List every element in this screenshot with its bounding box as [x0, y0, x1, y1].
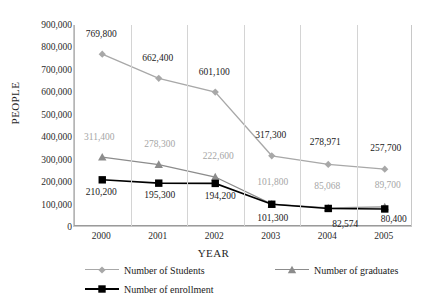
data-label: 80,400 — [359, 214, 427, 224]
y-tick-label: 600,000 — [14, 87, 72, 97]
legend-item-2[interactable]: Number of enrollment — [85, 281, 213, 297]
legend-item-1[interactable]: Number of graduates — [275, 262, 398, 278]
triangle-marker — [275, 264, 309, 276]
diamond-marker — [85, 264, 119, 276]
data-label: 89,700 — [353, 180, 423, 190]
y-tick-label: 0 — [14, 222, 72, 232]
vertical-gridline — [357, 25, 358, 226]
vertical-gridline — [300, 25, 301, 226]
data-label: 311,400 — [64, 132, 134, 142]
y-tick-label: 700,000 — [14, 65, 72, 75]
x-axis-title: YEAR — [0, 247, 427, 259]
data-label: 278,971 — [290, 137, 360, 147]
y-tick-label: 100,000 — [14, 200, 72, 210]
chart-legend: Number of StudentsNumber of graduatesNum… — [0, 262, 427, 302]
y-tick-label: 200,000 — [14, 177, 72, 187]
y-tick-label: 300,000 — [14, 155, 72, 165]
legend-label: Number of graduates — [314, 265, 398, 276]
x-tick-label: 2004 — [297, 231, 357, 241]
data-label: 85,068 — [292, 181, 362, 191]
data-label: 222,600 — [183, 151, 253, 161]
data-label: 257,700 — [351, 143, 421, 153]
x-tick-label: 2000 — [71, 231, 131, 241]
data-label: 194,200 — [185, 191, 255, 201]
data-label: 278,300 — [125, 139, 195, 149]
x-tick-label: 2002 — [184, 231, 244, 241]
data-label: 662,400 — [123, 53, 193, 63]
line-chart: PEOPLE 900,000800,000700,000600,000500,0… — [0, 0, 427, 302]
y-tick-label: 500,000 — [14, 110, 72, 120]
legend-label: Number of enrollment — [124, 284, 213, 295]
data-label: 195,300 — [125, 190, 195, 200]
legend-label: Number of Students — [124, 265, 205, 276]
data-label: 101,300 — [238, 213, 308, 223]
legend-item-0[interactable]: Number of Students — [85, 262, 205, 278]
x-tick-label: 2001 — [128, 231, 188, 241]
x-tick-label: 2005 — [354, 231, 414, 241]
x-tick-label: 2003 — [241, 231, 301, 241]
y-tick-label: 800,000 — [14, 42, 72, 52]
data-label: 769,800 — [66, 29, 136, 39]
y-tick-label: 900,000 — [14, 20, 72, 30]
data-label: 601,100 — [179, 67, 249, 77]
square-marker — [85, 283, 119, 295]
